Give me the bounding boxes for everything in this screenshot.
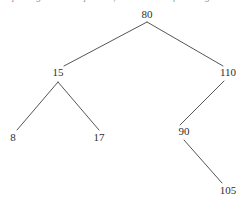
edge-group	[17, 22, 224, 183]
tree-node-80: 80	[142, 9, 153, 20]
tree-node-90: 90	[179, 126, 190, 137]
tree-diagram-screenshot: Repeating the above process, we obtain t…	[0, 0, 247, 209]
tree-edge-n80-n15	[64, 22, 147, 66]
tree-edge-n80-n110	[147, 22, 223, 66]
tree-node-17: 17	[94, 132, 105, 143]
tree-node-8: 8	[10, 132, 16, 143]
tree-edge-n15-n8	[17, 82, 58, 130]
tree-node-15: 15	[53, 67, 64, 78]
tree-edge-n90-n105	[184, 140, 222, 183]
tree-edge-n15-n17	[58, 82, 99, 130]
tree-edge-n110-n90	[180, 81, 224, 125]
tree-node-110: 110	[220, 67, 236, 78]
tree-edges-canvas	[0, 0, 247, 209]
tree-node-105: 105	[220, 185, 237, 196]
